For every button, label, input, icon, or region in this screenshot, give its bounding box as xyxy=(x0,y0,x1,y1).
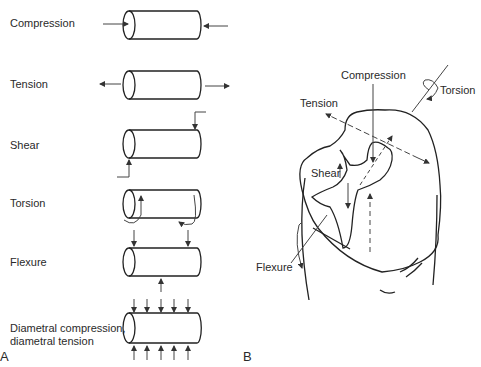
cylinder-flexure xyxy=(123,248,201,276)
diagram-drawing xyxy=(0,0,481,367)
cylinder-tension xyxy=(123,71,201,99)
cylinder-shear xyxy=(123,130,201,158)
cylinder-torsion xyxy=(123,190,201,218)
cylinder-compression xyxy=(123,11,201,39)
cylinder-diametral xyxy=(123,313,201,343)
